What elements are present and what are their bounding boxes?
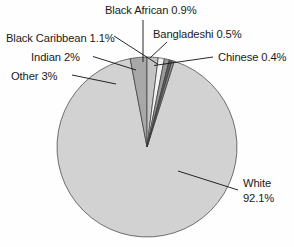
pie-chart-figure: Black African 0.9% Black Caribbean 1.1% … bbox=[0, 0, 294, 247]
label-bangladeshi: Bangladeshi 0.5% bbox=[153, 28, 242, 40]
label-other: Other 3% bbox=[11, 70, 58, 82]
label-black-caribbean: Black Caribbean 1.1% bbox=[6, 32, 115, 44]
label-indian: Indian 2% bbox=[31, 51, 80, 63]
label-white-value: 92.1% bbox=[243, 192, 274, 204]
pie-slices bbox=[57, 57, 237, 237]
label-black-african: Black African 0.9% bbox=[105, 4, 197, 16]
pie-chart-canvas: Black African 0.9% Black Caribbean 1.1% … bbox=[0, 0, 294, 247]
label-chinese: Chinese 0.4% bbox=[218, 51, 287, 63]
label-white-name: White bbox=[243, 177, 271, 189]
leader-line-bangladeshi bbox=[150, 42, 167, 58]
